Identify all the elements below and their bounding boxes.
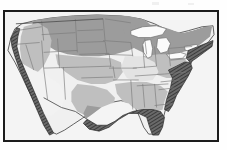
- scan-artifact-1: [152, 2, 159, 5]
- map-figure-page: [0, 0, 227, 150]
- map-frame: [3, 10, 219, 142]
- scan-artifact-2: [188, 3, 194, 5]
- us-thematic-map: [4, 11, 218, 141]
